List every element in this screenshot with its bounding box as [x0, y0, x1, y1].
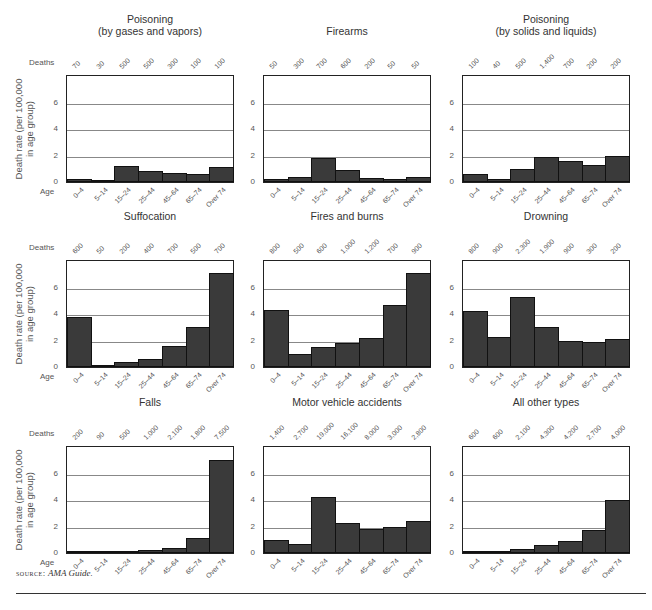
y-tick-label: 0 — [243, 177, 255, 186]
deaths-count: 700 — [166, 242, 179, 255]
y-tick-label: 2 — [442, 522, 454, 531]
y-tick-label: 6 — [243, 98, 255, 107]
deaths-count: 19,000 — [315, 421, 335, 441]
deaths-count: 500 — [118, 428, 131, 441]
bar-motor-vehicle-accidents-6 — [406, 521, 431, 553]
deaths-count: 90 — [95, 431, 105, 441]
gridline — [67, 157, 233, 158]
y-tick-label: 6 — [46, 98, 58, 107]
y-tick-label: 4 — [442, 495, 454, 504]
bar-motor-vehicle-accidents-1 — [288, 544, 313, 553]
bar-poisoning-by-solids-and-liquids-5 — [582, 165, 607, 182]
bar-all-other-types-2 — [510, 549, 535, 553]
bar-firearms-4 — [359, 178, 384, 182]
bar-drowning-1 — [487, 337, 512, 367]
bar-motor-vehicle-accidents-0 — [264, 540, 289, 553]
deaths-count: 500 — [142, 57, 155, 70]
plot-area-poisoning-by-gases-and-vapors — [66, 75, 234, 183]
y-tick-label: 4 — [442, 124, 454, 133]
y-tick-label: 0 — [442, 548, 454, 557]
chart-title-all-other-types: All other types — [452, 396, 640, 408]
bar-suffocation-4 — [162, 346, 187, 367]
bar-poisoning-by-solids-and-liquids-2 — [510, 169, 535, 182]
deaths-count: 1,400 — [268, 424, 285, 441]
age-axis-label: Age — [40, 187, 54, 196]
deaths-count: 600 — [339, 57, 352, 70]
gridline — [67, 315, 233, 316]
bar-poisoning-by-solids-and-liquids-4 — [558, 161, 583, 182]
y-tick-label: 0 — [46, 548, 58, 557]
y-tick-label: 0 — [442, 362, 454, 371]
chart-title-poisoning-by-gases-and-vapors: Poisoning (by gases and vapors) — [56, 13, 244, 37]
y-tick-label: 6 — [442, 98, 454, 107]
bar-drowning-0 — [463, 311, 488, 367]
deaths-count: 7,500 — [213, 424, 230, 441]
bar-poisoning-by-solids-and-liquids-0 — [463, 174, 488, 182]
y-tick-label: 6 — [442, 283, 454, 292]
plot-area-fires-and-burns — [263, 260, 431, 368]
bar-firearms-1 — [288, 177, 313, 182]
bar-falls-5 — [186, 538, 211, 553]
deaths-count: 3,000 — [386, 424, 403, 441]
gridline — [463, 315, 629, 316]
bar-drowning-3 — [534, 327, 559, 367]
bar-all-other-types-1 — [487, 551, 512, 553]
deaths-count: 800 — [268, 242, 281, 255]
gridline — [463, 501, 629, 502]
deaths-count: 600 — [467, 428, 480, 441]
chart-title-fires-and-burns: Fires and burns — [253, 210, 441, 222]
source-label: source: — [16, 568, 46, 578]
y-tick-label: 0 — [442, 177, 454, 186]
plot-area-falls — [66, 446, 234, 554]
gridline — [67, 501, 233, 502]
y-axis-label: Death rate (per 100,000 in age group) — [13, 445, 35, 555]
bar-all-other-types-5 — [582, 530, 607, 553]
deaths-axis-label: Deaths — [29, 58, 54, 67]
y-tick-label: 2 — [46, 151, 58, 160]
gridline — [264, 157, 430, 158]
gridline — [264, 104, 430, 105]
y-tick-label: 2 — [46, 336, 58, 345]
deaths-count: 50 — [95, 245, 105, 255]
deaths-count: 900 — [491, 242, 504, 255]
y-tick-label: 6 — [243, 469, 255, 478]
gridline — [67, 130, 233, 131]
deaths-count: 600 — [315, 242, 328, 255]
bar-fires-and-burns-1 — [288, 354, 313, 367]
gridline — [67, 289, 233, 290]
bar-suffocation-0 — [67, 317, 92, 367]
y-tick-label: 0 — [46, 177, 58, 186]
bar-poisoning-by-gases-and-vapors-2 — [114, 166, 139, 182]
y-tick-label: 4 — [243, 495, 255, 504]
chart-title-suffocation: Suffocation — [56, 210, 244, 222]
deaths-count: 2,100 — [514, 424, 531, 441]
deaths-count: 700 — [562, 57, 575, 70]
y-tick-label: 0 — [243, 548, 255, 557]
bar-all-other-types-0 — [463, 551, 488, 553]
bar-drowning-6 — [605, 339, 630, 367]
deaths-count: 1,400 — [538, 53, 555, 70]
deaths-count: 1,200 — [363, 238, 380, 255]
deaths-count: 70 — [71, 60, 81, 70]
y-tick-label: 6 — [46, 469, 58, 478]
deaths-count: 200 — [609, 57, 622, 70]
deaths-count: 900 — [562, 242, 575, 255]
bar-poisoning-by-gases-and-vapors-4 — [162, 173, 187, 182]
deaths-count: 2,100 — [166, 424, 183, 441]
deaths-count: 8,000 — [363, 424, 380, 441]
bar-poisoning-by-gases-and-vapors-6 — [209, 167, 234, 182]
plot-area-drowning — [462, 260, 630, 368]
bar-fires-and-burns-6 — [406, 273, 431, 367]
gridline — [463, 475, 629, 476]
deaths-count: 500 — [118, 57, 131, 70]
bar-suffocation-5 — [186, 327, 211, 367]
y-axis-label: Death rate (per 100,000 in age group) — [13, 74, 35, 184]
bar-falls-3 — [138, 550, 163, 553]
deaths-count: 200 — [609, 242, 622, 255]
bar-poisoning-by-gases-and-vapors-3 — [138, 171, 163, 182]
deaths-count: 200 — [118, 242, 131, 255]
bar-falls-1 — [91, 551, 116, 553]
deaths-count: 300 — [585, 242, 598, 255]
y-tick-label: 2 — [442, 336, 454, 345]
deaths-count: 500 — [292, 242, 305, 255]
